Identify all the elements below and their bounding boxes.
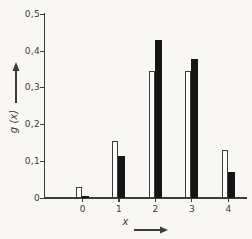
x-axis-line <box>44 197 247 198</box>
y-axis-title: g (x) <box>7 100 20 144</box>
solid-bar <box>118 156 125 198</box>
x-tick-label: 3 <box>184 204 200 215</box>
y-tick-label: 0 <box>13 193 40 204</box>
x-axis-right-arrow-icon <box>134 219 168 238</box>
y-tick-label: 0,5 <box>13 9 40 20</box>
y-tick-label: 0,4 <box>13 46 40 57</box>
y-tick <box>40 51 45 52</box>
y-tick <box>40 14 45 15</box>
solid-bar <box>155 40 162 198</box>
x-tick <box>118 198 119 202</box>
y-tick-label: 0,1 <box>13 156 40 167</box>
x-tick <box>228 198 229 202</box>
x-tick <box>191 198 192 202</box>
x-tick-label: 1 <box>111 204 127 215</box>
y-tick <box>40 161 45 162</box>
y-axis-line <box>44 13 45 198</box>
x-tick-label: 0 <box>75 204 91 215</box>
x-tick-label: 2 <box>147 204 163 215</box>
solid-bar <box>228 172 235 198</box>
bar-chart-figure: 00,10,20,30,40,501234 g (x) x <box>0 0 252 239</box>
x-axis-title: x <box>119 216 132 228</box>
solid-bar <box>82 196 89 198</box>
x-tick <box>82 198 83 202</box>
y-tick <box>40 87 45 88</box>
y-tick <box>40 124 45 125</box>
x-tick-label: 4 <box>220 204 236 215</box>
y-tick <box>40 198 45 199</box>
x-tick <box>155 198 156 202</box>
solid-bar <box>191 59 198 198</box>
